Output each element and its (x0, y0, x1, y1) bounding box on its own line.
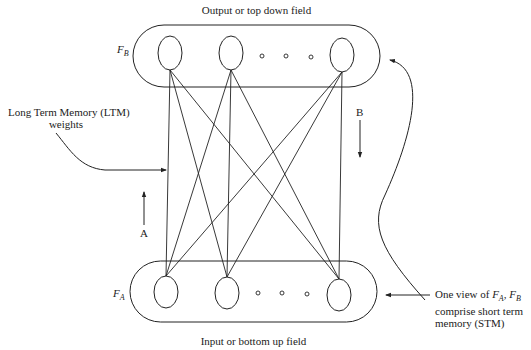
bottom-field-name-main: F (113, 287, 120, 299)
stm-label-line2: comprise short term (435, 305, 523, 317)
top-field-name: FB (117, 43, 129, 60)
ltm-weight-connections (166, 70, 342, 279)
bottom-ellipsis-dots (256, 291, 309, 296)
arrow-a-label: A (140, 227, 148, 239)
top-field-caption: Output or top down field (133, 4, 380, 16)
top-field-name-sub: B (124, 49, 129, 58)
ltm-pointer-arrow (56, 133, 166, 170)
arrow-b-label: B (356, 106, 363, 118)
stm-label-line3: memory (STM) (435, 317, 523, 329)
top-field-name-main: F (117, 43, 124, 55)
bottom-field-name: FA (113, 287, 125, 304)
stm-to-top-field-arrow (378, 60, 425, 300)
ltm-label-line1: Long Term Memory (LTM) (8, 106, 124, 118)
ltm-label: Long Term Memory (LTM) weights (8, 106, 124, 130)
bottom-neuron-2 (215, 277, 239, 309)
top-neuron-1 (158, 36, 182, 70)
stm-label: One view of FA, FB comprise short term m… (435, 288, 523, 329)
bottom-field-caption: Input or bottom up field (130, 335, 377, 347)
top-ellipsis-dots (260, 54, 313, 59)
stm-label-line1: One view of FA, FB (435, 288, 523, 305)
bottom-field-boundary (130, 261, 377, 322)
ltm-label-line2: weights (8, 118, 124, 130)
bottom-field-name-sub: A (120, 293, 125, 302)
bottom-neuron-n (327, 279, 351, 311)
top-neuron-2 (219, 36, 243, 70)
top-neuron-n (330, 38, 354, 72)
bottom-neuron-1 (154, 276, 178, 308)
